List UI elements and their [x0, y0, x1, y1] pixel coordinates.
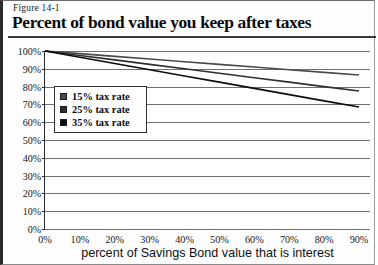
legend-swatch-icon: [60, 119, 67, 126]
x-tick-label: 80%: [315, 234, 334, 245]
x-tick-label: 70%: [280, 234, 299, 245]
plot-area: 0%10%20%30%40%50%60%70%80%90%100% 0%10%2…: [44, 51, 370, 230]
y-tick-label: 100%: [18, 46, 41, 57]
y-tick-label: 10%: [23, 206, 41, 217]
x-tick-label: 40%: [175, 234, 194, 245]
legend-label: 25% tax rate: [72, 104, 130, 115]
x-tick-label: 30%: [140, 234, 159, 245]
legend-swatch-icon: [60, 106, 67, 113]
x-axis-title: percent of Savings Bond value that is in…: [45, 246, 370, 260]
y-tick-label: 40%: [23, 152, 41, 163]
y-tick-label: 90%: [23, 63, 41, 74]
legend-item: 15% tax rate: [60, 90, 142, 103]
legend-item: 25% tax rate: [60, 103, 142, 116]
y-tick-label: 80%: [23, 81, 41, 92]
y-tick-mark: [42, 229, 45, 230]
gridline: [45, 229, 370, 230]
legend-label: 15% tax rate: [72, 91, 130, 102]
plot-wrapper: 0%10%20%30%40%50%60%70%80%90%100% 0%10%2…: [3, 1, 378, 265]
series-lines: [45, 51, 370, 229]
chart-legend: 15% tax rate25% tax rate35% tax rate: [54, 86, 147, 133]
legend-label: 35% tax rate: [72, 117, 130, 128]
y-tick-label: 20%: [23, 188, 41, 199]
x-tick-label: 90%: [350, 234, 369, 245]
y-tick-label: 30%: [23, 170, 41, 181]
y-tick-label: 50%: [23, 135, 41, 146]
x-tick-label: 50%: [210, 234, 229, 245]
legend-item: 35% tax rate: [60, 116, 142, 129]
y-tick-label: 0%: [28, 224, 41, 235]
y-tick-label: 60%: [23, 117, 41, 128]
x-tick-label: 20%: [105, 234, 124, 245]
x-tick-label: 10%: [71, 234, 90, 245]
legend-swatch-icon: [60, 93, 67, 100]
y-tick-label: 70%: [23, 99, 41, 110]
x-tick-label: 60%: [245, 234, 264, 245]
x-tick-label: 0%: [38, 234, 52, 245]
